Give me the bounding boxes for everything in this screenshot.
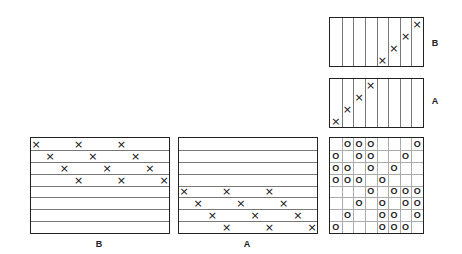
panel-o-grid: OOOOOOOOOOOOOOOOOOOOOOOOOOOOOOOO [329,137,424,234]
x-mark: × [292,210,303,221]
x-mark: × [159,174,170,185]
panel-vertical-a: ×××× [329,78,424,128]
panel-horizontal-b: ×××××××××××× [30,137,170,234]
o-mark: O [389,211,399,220]
o-mark: O [354,151,364,160]
row-divider [31,186,169,187]
panel-vertical-b: ×××× [329,17,424,67]
x-mark: × [221,186,232,197]
x-mark: × [31,138,42,149]
o-mark: O [366,139,376,148]
x-mark: × [330,116,341,127]
column-divider [377,79,378,127]
column-divider [388,79,389,127]
o-mark: O [366,163,376,172]
o-mark: O [331,175,341,184]
o-mark: O [401,199,411,208]
o-mark: O [412,187,422,196]
o-mark: O [354,139,364,148]
column-divider [365,18,366,66]
x-mark: × [207,210,218,221]
o-mark: O [377,199,387,208]
o-mark: O [354,175,364,184]
o-mark: O [354,199,364,208]
column-divider [353,18,354,66]
o-mark: O [366,151,376,160]
x-mark: × [87,150,98,161]
row-divider [31,209,169,210]
o-mark: O [331,223,341,232]
row-divider [31,197,169,198]
x-mark: × [59,162,70,173]
x-mark: × [264,222,275,233]
o-mark: O [412,211,422,220]
o-mark: O [342,175,352,184]
x-mark: × [73,138,84,149]
label-vertical-b: B [432,38,439,48]
o-mark: O [389,223,399,232]
x-mark: × [116,138,127,149]
o-mark: O [401,223,411,232]
o-mark: O [412,139,422,148]
row-divider [179,150,317,151]
x-mark: × [45,150,56,161]
x-mark: × [400,31,411,42]
o-mark: O [342,163,352,172]
x-mark: × [342,104,353,115]
o-mark: O [401,151,411,160]
x-mark: × [377,55,388,66]
x-mark: × [278,198,289,209]
o-mark: O [377,223,387,232]
label-horizontal-a: A [244,239,251,249]
o-mark: O [377,175,387,184]
row-divider [31,221,169,222]
x-mark: × [235,198,246,209]
o-mark: O [389,187,399,196]
label-horizontal-b: B [96,239,103,249]
x-mark: × [179,186,190,197]
x-mark: × [388,43,399,54]
o-mark: O [377,211,387,220]
x-mark: × [144,162,155,173]
o-mark: O [331,151,341,160]
x-mark: × [264,186,275,197]
column-divider [400,79,401,127]
row-divider [179,186,317,187]
row-divider [179,162,317,163]
panel-horizontal-a: ×××××××××××× [178,137,318,234]
x-mark: × [307,222,318,233]
row-divider [179,174,317,175]
o-mark: O [412,199,422,208]
x-mark: × [221,222,232,233]
x-mark: × [193,198,204,209]
o-mark: O [342,211,352,220]
x-mark: × [354,92,365,103]
label-vertical-a: A [432,96,439,106]
x-mark: × [102,162,113,173]
column-divider [411,79,412,127]
o-mark: O [389,163,399,172]
column-divider [342,18,343,66]
x-mark: × [365,80,376,91]
o-mark: O [366,187,376,196]
o-mark: O [342,139,352,148]
x-mark: × [73,174,84,185]
o-mark: O [401,187,411,196]
o-mark: O [331,163,341,172]
x-mark: × [116,174,127,185]
x-mark: × [412,19,423,30]
x-mark: × [130,150,141,161]
x-mark: × [250,210,261,221]
